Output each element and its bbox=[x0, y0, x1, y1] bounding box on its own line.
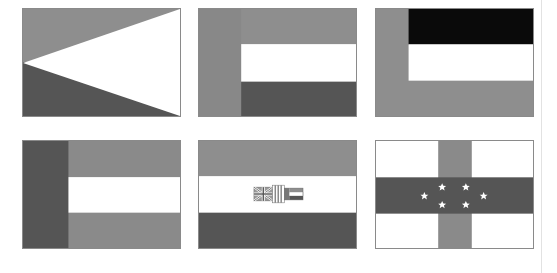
flag-6 bbox=[375, 140, 534, 249]
page-edge-divider bbox=[541, 0, 542, 273]
flag-1 bbox=[22, 8, 181, 117]
flag-4 bbox=[22, 140, 181, 249]
flag-3 bbox=[375, 8, 534, 117]
flag-5 bbox=[198, 140, 357, 249]
flag-2 bbox=[198, 8, 357, 117]
